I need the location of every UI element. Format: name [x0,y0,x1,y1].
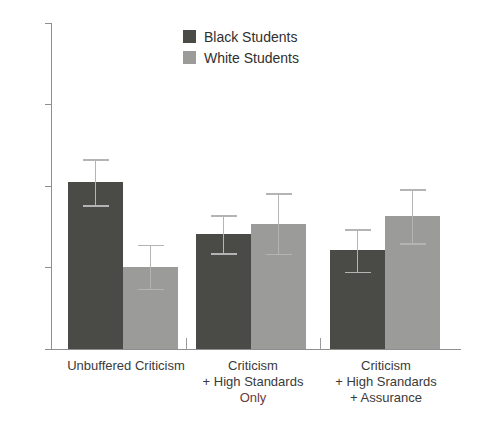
error-bar-stem-1-white-students [150,245,152,289]
error-bar-cap-lower-2-black-students [211,253,237,255]
error-bar-cap-upper-2-white-students [266,193,292,195]
category-label-2: Criticism + High Standards Only [180,358,326,406]
error-bar-cap-lower-2-white-students [266,254,292,256]
error-bar-cap-upper-2-black-students [211,215,237,217]
group-separator-1 [186,338,187,350]
error-bar-cap-lower-3-black-students [345,272,371,274]
bar-chart: 5 4 3 2 1 Unbuffered Criticism Criticism… [0,0,480,433]
legend-swatch-icon-white-students [183,51,196,64]
category-label-2-line3: Only [180,390,326,406]
category-label-3-line1: Criticism [313,358,459,374]
error-bar-cap-upper-3-black-students [345,229,371,231]
legend-item-white-students: White Students [183,47,299,68]
error-bar-stem-3-white-students [412,189,414,243]
plot-area [51,23,461,349]
error-bar-stem-1-black-students [95,159,97,205]
legend-swatch-icon-black-students [183,30,196,43]
legend-item-black-students: Black Students [183,26,299,47]
error-bar-cap-lower-3-white-students [400,243,426,245]
error-bar-cap-lower-1-black-students [83,205,109,207]
error-bar-stem-3-black-students [357,229,359,271]
category-label-3-line2: + High Srandards [313,374,459,390]
error-bar-cap-upper-1-black-students [83,159,109,161]
legend-label-black-students: Black Students [204,29,297,45]
bar-1-black-students [68,182,123,349]
error-bar-cap-upper-1-white-students [138,245,164,247]
error-bar-cap-upper-3-white-students [400,189,426,191]
group-separator-2 [320,338,321,350]
x-axis-line [51,349,461,350]
category-label-3-line3: + Assurance [313,390,459,406]
error-bar-stem-2-white-students [278,193,280,253]
error-bar-cap-lower-1-white-students [138,289,164,291]
category-label-2-line2: + High Standards [180,374,326,390]
category-label-2-line1: Criticism [180,358,326,374]
legend-label-white-students: White Students [204,50,299,66]
y-tick-1 [45,349,52,350]
category-label-3: Criticism + High Srandards + Assurance [313,358,459,406]
error-bar-stem-2-black-students [223,215,225,252]
legend: Black Students White Students [183,26,299,68]
